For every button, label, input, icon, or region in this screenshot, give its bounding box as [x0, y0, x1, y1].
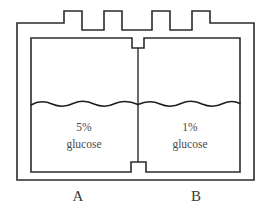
chamber-label-b: B: [191, 188, 201, 204]
outer-container-outline: [17, 11, 254, 180]
inner-vessel-outline: [31, 38, 240, 172]
liquid-surface-right: [138, 101, 240, 106]
chamber-label-a: A: [73, 188, 84, 204]
right-chamber-concentration: 1%: [182, 121, 198, 133]
diagram-canvas: 5% glucose 1% glucose A B: [0, 0, 269, 215]
left-chamber-solute: glucose: [66, 138, 101, 151]
liquid-surface-left: [31, 101, 138, 106]
osmosis-diagram-figure: 5% glucose 1% glucose A B: [0, 0, 269, 215]
right-chamber-solute: glucose: [172, 138, 207, 151]
left-chamber-concentration: 5%: [76, 121, 92, 133]
